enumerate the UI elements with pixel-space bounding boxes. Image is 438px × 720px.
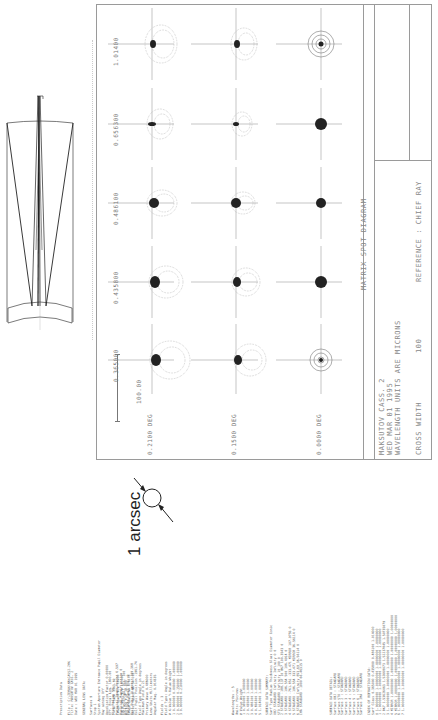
system-date: WED MAR 01 1995 bbox=[386, 383, 394, 455]
diagram-title: MATRIX SPOT DIAGRAM bbox=[360, 199, 368, 290]
box-width-label: CROSS WIDTH bbox=[415, 402, 423, 455]
optical-layout-drawing bbox=[0, 0, 90, 400]
system-name: MAKSUTOV CASS. 2 bbox=[378, 378, 386, 455]
prescription-block-2: Stop Radius 50 Paraxial Image Height 6.5… bbox=[112, 661, 184, 715]
field-row: 3 0.000000 0.210000 1.000000 bbox=[180, 661, 184, 715]
units-note: WAVELENGTH UNITS ARE MICRONS bbox=[394, 320, 402, 455]
reference-label: REFERENCE : CHIEF RAY bbox=[415, 181, 423, 282]
title-block-rule-1 bbox=[374, 4, 375, 460]
index-row: 7 1.00000000 1.00000000 1.00000000 1.000… bbox=[402, 615, 406, 715]
arcsec-circle-icon bbox=[140, 470, 200, 540]
spot-grid bbox=[96, 4, 363, 460]
title-block-rule-3 bbox=[374, 160, 432, 161]
page-edge-shadow bbox=[92, 40, 94, 340]
surface-row: IMA STANDARD -1000 66.46315 0 bbox=[300, 625, 304, 715]
prescription-block-3: Wavelengths : 5 Units: Microns # Value W… bbox=[232, 625, 304, 715]
prescription-block-4: SURFACE DATA DETAIL: Surface OBJ : STAND… bbox=[330, 615, 406, 715]
box-width-value: 100 bbox=[415, 339, 423, 353]
title-block-rule-2 bbox=[409, 4, 410, 160]
